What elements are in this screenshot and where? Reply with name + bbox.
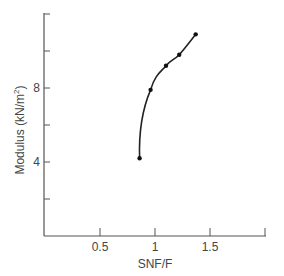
y-axis-title: Modulus (kN/m2): [12, 85, 27, 174]
y-tick-label: 4: [33, 155, 40, 169]
x-tick-label: 1.5: [202, 240, 219, 254]
chart: 0.511.5 48 SNF/F Modulus (kN/m2): [0, 0, 284, 276]
y-ticks: 48: [33, 14, 50, 199]
y-tick-label: 8: [33, 81, 40, 95]
x-ticks: 0.511.5: [92, 228, 265, 254]
data-point: [177, 53, 181, 57]
data-point: [194, 32, 198, 36]
axes: [44, 13, 266, 236]
data-point: [148, 88, 152, 92]
x-tick-label: 0.5: [92, 240, 109, 254]
data-curve: [139, 34, 195, 158]
data-point: [137, 156, 141, 160]
x-tick-label: 1: [152, 240, 159, 254]
data-point: [164, 64, 168, 68]
data-points: [137, 32, 197, 160]
x-axis-title: SNF/F: [138, 257, 173, 271]
